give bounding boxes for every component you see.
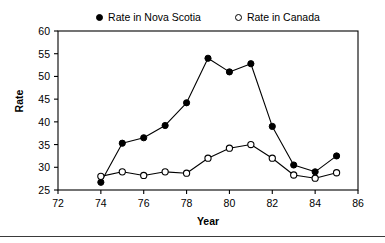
y-tick-label: 50 bbox=[28, 71, 50, 82]
chart-figure: Rate in Nova Scotia Rate in Canada Rate … bbox=[0, 0, 385, 243]
data-point-canada bbox=[141, 172, 147, 178]
data-point-canada bbox=[119, 169, 125, 175]
data-point-nova-scotia bbox=[141, 135, 147, 141]
data-point-canada bbox=[205, 155, 211, 161]
x-tick-label: 74 bbox=[89, 198, 113, 209]
data-point-nova-scotia bbox=[162, 122, 168, 128]
data-point-nova-scotia bbox=[98, 179, 104, 185]
data-point-canada bbox=[183, 170, 189, 176]
x-tick-label: 80 bbox=[217, 198, 241, 209]
data-point-nova-scotia bbox=[226, 69, 232, 75]
data-point-nova-scotia bbox=[333, 153, 339, 159]
data-point-canada bbox=[98, 173, 104, 179]
x-tick-label: 72 bbox=[46, 198, 70, 209]
x-tick-label: 82 bbox=[260, 198, 284, 209]
x-tick-label: 76 bbox=[132, 198, 156, 209]
x-tick-label: 86 bbox=[346, 198, 370, 209]
x-tick-label: 84 bbox=[303, 198, 327, 209]
y-tick-label: 55 bbox=[28, 49, 50, 60]
y-tick-label: 35 bbox=[28, 140, 50, 151]
data-point-nova-scotia bbox=[248, 61, 254, 67]
data-point-nova-scotia bbox=[312, 169, 318, 175]
y-tick-label: 30 bbox=[28, 162, 50, 173]
y-tick-label: 40 bbox=[28, 117, 50, 128]
x-axis-title: Year bbox=[58, 215, 358, 227]
series-line-canada bbox=[101, 145, 337, 179]
y-tick-label: 25 bbox=[28, 185, 50, 196]
data-point-canada bbox=[162, 169, 168, 175]
y-tick-label: 45 bbox=[28, 94, 50, 105]
series-line-nova-scotia bbox=[101, 58, 337, 182]
data-point-canada bbox=[312, 175, 318, 181]
y-axis-title: Rate bbox=[13, 81, 25, 121]
footer-divider bbox=[0, 236, 385, 237]
data-point-canada bbox=[291, 172, 297, 178]
data-point-nova-scotia bbox=[291, 162, 297, 168]
x-tick-label: 78 bbox=[175, 198, 199, 209]
data-point-nova-scotia bbox=[205, 55, 211, 61]
data-point-canada bbox=[333, 170, 339, 176]
data-point-canada bbox=[226, 145, 232, 151]
data-point-nova-scotia bbox=[183, 100, 189, 106]
y-tick-label: 60 bbox=[28, 26, 50, 37]
data-point-nova-scotia bbox=[119, 140, 125, 146]
data-point-nova-scotia bbox=[269, 123, 275, 129]
data-point-canada bbox=[269, 155, 275, 161]
data-point-canada bbox=[248, 141, 254, 147]
